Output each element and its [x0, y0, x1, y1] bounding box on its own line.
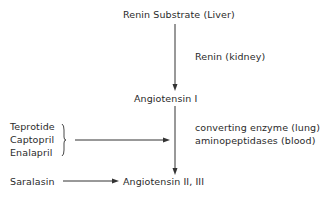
node-angiotensin-2-3: Angiotensin II, III [123, 176, 204, 187]
label-renin-kidney: Renin (kidney) [195, 51, 265, 62]
node-angiotensin-1: Angiotensin I [134, 93, 197, 104]
arrowhead-right-icon [112, 179, 119, 184]
arrowhead-down-icon [173, 168, 178, 175]
inhibitor-teprotide: Teprotide [10, 121, 55, 132]
label-converting-enzyme: converting enzyme (lung) [195, 122, 320, 133]
inhibitor-enalapril: Enalapril [10, 147, 52, 158]
inhibitor-saralasin: Saralasin [10, 176, 55, 187]
inhibitor-captopril: Captopril [10, 134, 54, 145]
node-renin-substrate: Renin Substrate (Liver) [123, 9, 235, 20]
label-aminopeptidases: aminopeptidases (blood) [195, 135, 315, 146]
brace-icon [62, 124, 66, 156]
arrowhead-right-icon [163, 138, 170, 143]
arrowhead-down-icon [173, 84, 178, 91]
